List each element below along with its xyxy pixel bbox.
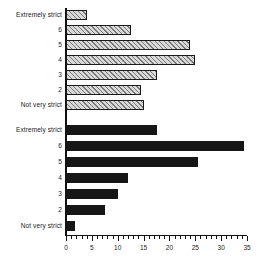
x-tick-minor [71,236,72,239]
x-tick-minor [200,236,201,239]
x-tick-minor [206,236,207,239]
x-tick-minor [211,236,212,239]
y-tick-label-top-3: 4 [0,55,62,65]
bar-top-3 [66,70,157,80]
x-tick-minor [123,236,124,239]
bar-bottom-not-very-strict [66,221,75,231]
x-tick-minor [107,236,108,239]
x-tick-minor [133,236,134,239]
x-tick-major [66,236,67,241]
x-tick-minor [113,236,114,239]
bar-bottom-2 [66,205,105,215]
x-tick-label: 15 [134,243,154,252]
y-tick-label-bottom-0: Extremely strict [0,125,62,135]
bar-top-not-very-strict [66,100,144,110]
x-tick-minor [231,236,232,239]
x-tick-minor [97,236,98,239]
y-tick-label-bottom-6: Not very strict [0,221,62,231]
x-tick-label: 35 [237,243,257,252]
bar-chart: Extremely strict 6 5 4 3 2 [0,0,265,260]
bar-top-2 [66,85,141,95]
bar-bottom-4 [66,173,128,183]
y-tick-label-top-1: 6 [0,25,62,35]
bar-top-4 [66,55,195,65]
bar-top-extremely-strict [66,10,87,20]
y-tick-label-bottom-1: 6 [0,141,62,151]
x-tick-minor [154,236,155,239]
x-tick-label: 10 [108,243,128,252]
x-tick-label: 30 [211,243,231,252]
x-tick-minor [242,236,243,239]
x-tick-minor [190,236,191,239]
y-tick-label-top-5: 2 [0,85,62,95]
x-tick-minor [159,236,160,239]
y-tick-label-bottom-2: 5 [0,157,62,167]
x-tick-minor [102,236,103,239]
bar-top-6 [66,25,131,35]
x-tick-minor [180,236,181,239]
bar-bottom-5 [66,157,198,167]
x-tick-minor [226,236,227,239]
bar-bottom-6 [66,141,244,151]
x-tick-minor [128,236,129,239]
y-tick-label-top-0: Extremely strict [0,10,62,20]
bar-bottom-3 [66,189,118,199]
x-tick-minor [82,236,83,239]
x-tick-minor [138,236,139,239]
x-tick-major [144,236,145,241]
y-tick-label-top-6: Not very strict [0,100,62,110]
x-tick-minor [164,236,165,239]
y-tick-label-top-4: 3 [0,70,62,80]
x-tick-minor [76,236,77,239]
x-axis-line [66,235,247,236]
y-tick-label-bottom-3: 4 [0,173,62,183]
x-tick-minor [237,236,238,239]
y-tick-label-bottom-5: 2 [0,205,62,215]
x-tick-label: 20 [159,243,179,252]
x-tick-label: 5 [82,243,102,252]
x-tick-major [195,236,196,241]
x-tick-major [92,236,93,241]
bar-bottom-extremely-strict [66,125,157,135]
x-tick-minor [185,236,186,239]
x-tick-minor [216,236,217,239]
x-tick-minor [149,236,150,239]
x-tick-minor [87,236,88,239]
x-tick-label: 25 [185,243,205,252]
x-tick-major [169,236,170,241]
y-tick-label-bottom-4: 3 [0,189,62,199]
bar-top-5 [66,40,190,50]
x-tick-major [118,236,119,241]
x-tick-label: 0 [56,243,76,252]
x-tick-minor [175,236,176,239]
x-tick-major [247,236,248,241]
x-tick-major [221,236,222,241]
plot-area: Extremely strict 6 5 4 3 2 [0,0,265,260]
y-tick-label-top-2: 5 [0,40,62,50]
